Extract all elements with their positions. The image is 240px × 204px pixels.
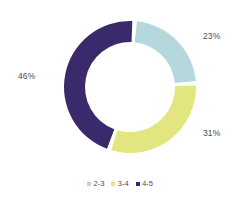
legend-swatch-3-4: [111, 182, 115, 186]
slice-value-label-4-5: 46%: [18, 71, 35, 81]
slice-value-label-3-4: 31%: [203, 128, 220, 138]
legend-item-3-4[interactable]: 3-4: [111, 180, 128, 188]
legend-swatch-2-3: [87, 182, 91, 186]
donut-slice-3-4[interactable]: [111, 86, 196, 153]
legend-label-3-4: 3-4: [118, 180, 129, 188]
chart-legend: 2-33-44-5: [0, 180, 240, 188]
donut-slice-2-3[interactable]: [135, 21, 196, 83]
legend-swatch-4-5: [136, 182, 140, 186]
legend-label-2-3: 2-3: [93, 180, 104, 188]
slice-value-label-2-3: 23%: [203, 31, 220, 41]
legend-label-4-5: 4-5: [142, 180, 153, 188]
donut-chart: 23% 31% 46% 2-33-44-5: [0, 0, 240, 204]
donut-slice-4-5[interactable]: [64, 21, 132, 149]
legend-item-4-5[interactable]: 4-5: [136, 180, 153, 188]
legend-item-2-3[interactable]: 2-3: [87, 180, 104, 188]
donut-slice-group: [64, 21, 196, 153]
